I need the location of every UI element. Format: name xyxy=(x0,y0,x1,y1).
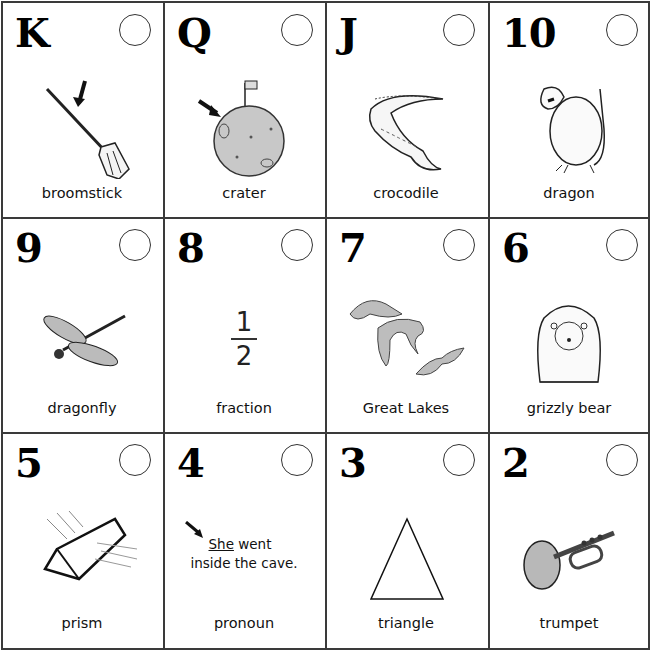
great-lakes-map-icon xyxy=(345,284,467,394)
card-code: 3 xyxy=(339,441,366,485)
fraction-bar xyxy=(231,338,257,340)
triangle-icon xyxy=(345,499,467,609)
card-word: triangle xyxy=(325,615,487,631)
card-word: fraction xyxy=(163,400,325,416)
fraction-numerator: 1 xyxy=(231,307,257,337)
card-code: 4 xyxy=(177,441,204,485)
card-code: 10 xyxy=(502,11,556,55)
card-grizzly-bear: 6 grizzly bear xyxy=(488,216,650,431)
answer-circle[interactable] xyxy=(119,229,151,261)
crocodile-icon xyxy=(345,69,467,179)
dragonfly-icon xyxy=(21,284,143,394)
card-broomstick: K broomstick xyxy=(1,1,163,216)
card-code: 8 xyxy=(177,226,204,270)
card-code: 5 xyxy=(15,441,42,485)
card-word: prism xyxy=(1,615,163,631)
card-pronoun: 4 She went inside the cave. pronoun xyxy=(163,431,325,646)
card-code: J xyxy=(339,11,357,55)
answer-circle[interactable] xyxy=(443,444,475,476)
card-word: dragonfly xyxy=(1,400,163,416)
broomstick-icon xyxy=(21,69,143,179)
answer-circle[interactable] xyxy=(119,14,151,46)
card-crocodile: J crocodile xyxy=(325,1,487,216)
fraction-denominator: 2 xyxy=(231,341,257,371)
moon-crater-icon xyxy=(183,69,305,179)
sentence-text: inside the cave. xyxy=(191,554,298,573)
card-dragon: 10 dragon xyxy=(488,1,650,216)
fraction-picture: 1 2 xyxy=(183,284,305,394)
card-trumpet: 2 trumpet xyxy=(488,431,650,646)
pronoun-word: She xyxy=(209,536,234,552)
card-code: K xyxy=(15,11,49,55)
grizzly-bear-icon xyxy=(508,284,630,394)
trumpet-icon xyxy=(508,499,630,609)
card-code: Q xyxy=(177,11,211,55)
dragon-icon xyxy=(508,69,630,179)
answer-circle[interactable] xyxy=(606,229,638,261)
card-word: Great Lakes xyxy=(325,400,487,416)
answer-circle[interactable] xyxy=(443,14,475,46)
answer-circle[interactable] xyxy=(606,14,638,46)
card-word: broomstick xyxy=(1,185,163,201)
prism-icon xyxy=(21,499,143,609)
answer-circle[interactable] xyxy=(606,444,638,476)
card-code: 7 xyxy=(339,226,366,270)
card-crater: Q crater xyxy=(163,1,325,216)
card-code: 6 xyxy=(502,226,529,270)
answer-circle[interactable] xyxy=(281,444,313,476)
answer-circle[interactable] xyxy=(443,229,475,261)
sentence-picture: She went inside the cave. xyxy=(183,499,305,609)
answer-circle[interactable] xyxy=(119,444,151,476)
card-word: crocodile xyxy=(325,185,487,201)
card-word: trumpet xyxy=(488,615,650,631)
card-code: 2 xyxy=(502,441,529,485)
card-code: 9 xyxy=(15,226,42,270)
card-dragonfly: 9 dragonfly xyxy=(1,216,163,431)
example-sentence: She went inside the cave. xyxy=(191,535,298,573)
card-word: dragon xyxy=(488,185,650,201)
sentence-text: went xyxy=(234,536,272,552)
card-triangle: 3 triangle xyxy=(325,431,487,646)
card-prism: 5 prism xyxy=(1,431,163,646)
card-word: crater xyxy=(163,185,325,201)
arrow-icon xyxy=(185,521,205,539)
answer-circle[interactable] xyxy=(281,14,313,46)
card-fraction: 8 1 2 fraction xyxy=(163,216,325,431)
card-great-lakes: 7 Great Lakes xyxy=(325,216,487,431)
answer-circle[interactable] xyxy=(281,229,313,261)
card-word: grizzly bear xyxy=(488,400,650,416)
card-word: pronoun xyxy=(163,615,325,631)
